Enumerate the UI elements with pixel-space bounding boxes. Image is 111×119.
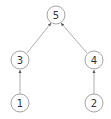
node-1: 1 — [11, 94, 29, 112]
node-5: 5 — [47, 6, 65, 24]
node-label: 4 — [91, 55, 97, 66]
node-4: 4 — [85, 51, 103, 69]
node-2: 2 — [85, 94, 103, 112]
node-label: 2 — [91, 98, 97, 109]
node-label: 1 — [17, 98, 23, 109]
edge-4-to-5 — [61, 23, 87, 53]
tree-diagram: 5 3 4 1 2 — [0, 0, 111, 119]
node-3: 3 — [11, 51, 29, 69]
node-label: 5 — [53, 10, 59, 21]
node-label: 3 — [17, 55, 23, 66]
edge-3-to-5 — [27, 23, 51, 53]
